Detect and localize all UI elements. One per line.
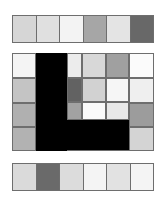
board-tile[interactable] — [106, 102, 129, 120]
board-tile[interactable] — [12, 78, 36, 103]
board-tile[interactable] — [67, 53, 82, 78]
board-tile[interactable] — [82, 53, 106, 78]
top-strip-cell[interactable] — [13, 16, 37, 42]
board-tile[interactable] — [67, 78, 82, 102]
board-tile[interactable] — [129, 78, 154, 103]
top-color-strip — [12, 15, 154, 43]
board-tile[interactable] — [129, 127, 154, 151]
top-strip-cell[interactable] — [131, 16, 154, 42]
puzzle-board — [12, 53, 154, 151]
bottom-strip-cell[interactable] — [107, 164, 131, 190]
top-strip-cell[interactable] — [84, 16, 108, 42]
board-tile[interactable] — [82, 78, 106, 102]
board-tile[interactable] — [12, 103, 36, 127]
bottom-strip-cell[interactable] — [37, 164, 61, 190]
board-wall-tile — [36, 53, 67, 151]
board-tile[interactable] — [12, 53, 36, 78]
top-strip-cell[interactable] — [107, 16, 131, 42]
board-tile[interactable] — [106, 53, 129, 78]
top-strip-cell[interactable] — [60, 16, 84, 42]
bottom-color-strip — [12, 163, 154, 191]
board-tile[interactable] — [67, 102, 82, 120]
board-tile[interactable] — [129, 53, 154, 78]
top-strip-cell[interactable] — [37, 16, 61, 42]
board-tile[interactable] — [12, 127, 36, 151]
board-tile[interactable] — [82, 102, 106, 120]
bottom-strip-cell[interactable] — [84, 164, 108, 190]
bottom-strip-cell[interactable] — [13, 164, 37, 190]
board-tile[interactable] — [106, 78, 129, 102]
bottom-strip-cell[interactable] — [60, 164, 84, 190]
board-tile[interactable] — [129, 103, 154, 127]
bottom-strip-cell[interactable] — [131, 164, 154, 190]
